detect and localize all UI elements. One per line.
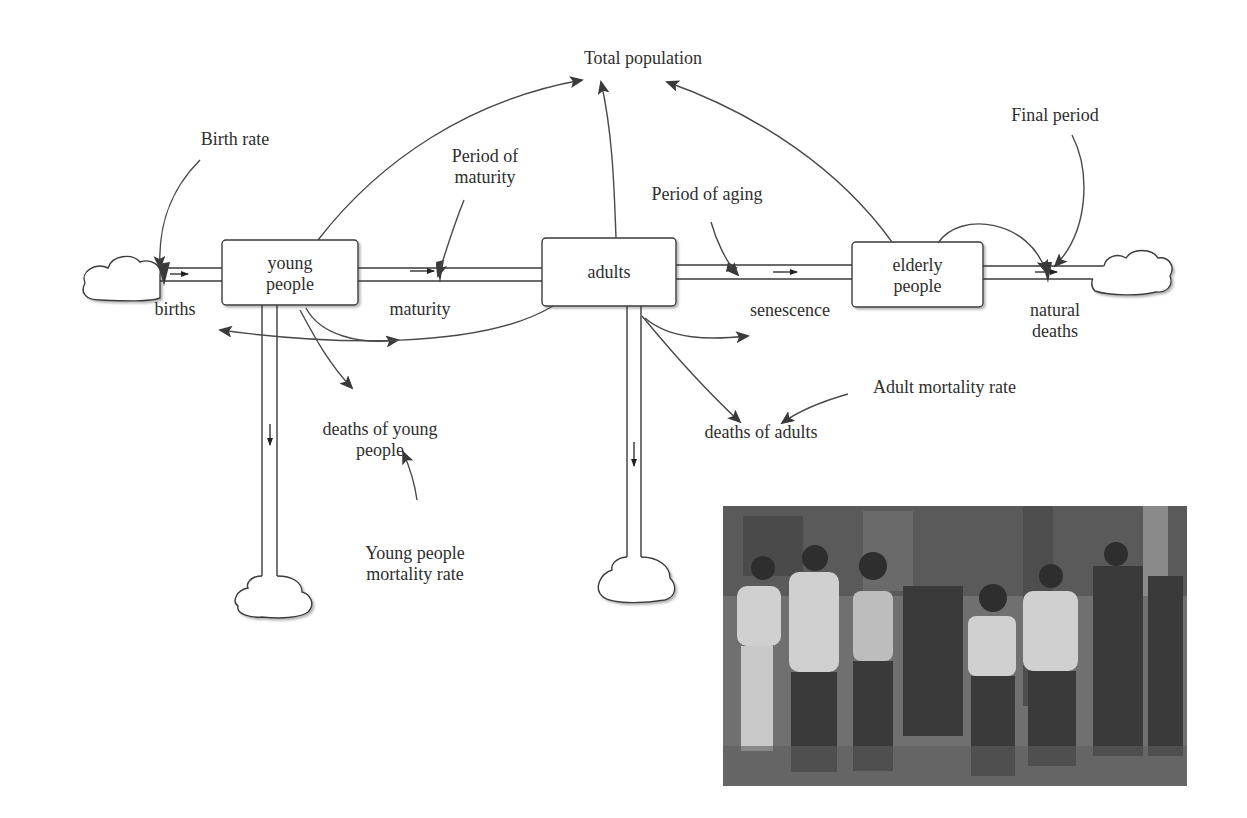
crowd-photo-image	[723, 506, 1187, 786]
stock-young-line1: young	[222, 253, 358, 274]
link-adults-totalpop	[601, 82, 616, 238]
link-periodmaturity-maturity	[438, 200, 464, 276]
flow-deaths-young-line2: people	[295, 440, 465, 461]
aux-period-of-maturity-line1: Period of	[425, 146, 545, 167]
aux-young-mortality-line2: mortality rate	[340, 564, 490, 585]
stock-adults-label: adults	[542, 262, 676, 283]
link-birthrate-births	[160, 160, 200, 268]
crowd-photo	[723, 506, 1187, 786]
link-young-deaths	[300, 310, 352, 388]
flow-deaths-of-adults-label: deaths of adults	[676, 422, 846, 443]
stock-elderly-line1: elderly	[852, 255, 983, 276]
sink-cloud-adult-deaths	[598, 557, 674, 603]
flow-maturity-label: maturity	[370, 299, 470, 320]
aux-young-people-mortality-rate: Young people mortality rate	[340, 543, 490, 585]
stock-elderly-line2: people	[852, 276, 983, 297]
stock-elderly-people-label: elderly people	[852, 255, 983, 297]
stock-young-line2: people	[222, 274, 358, 295]
aux-adult-mortality-rate: Adult mortality rate	[852, 377, 1037, 398]
flow-natural-deaths-line2: deaths	[1000, 321, 1110, 342]
link-finalperiod-naturaldeaths	[1055, 135, 1084, 266]
flow-births-label: births	[140, 299, 210, 320]
aux-final-period: Final period	[990, 105, 1120, 126]
flow-natural-deaths-label: natural deaths	[1000, 300, 1110, 342]
aux-period-of-maturity-line2: maturity	[425, 167, 545, 188]
flow-senescence-label: senescence	[730, 300, 850, 321]
aux-period-of-aging: Period of aging	[632, 184, 782, 205]
link-adults-deathsadults	[642, 316, 740, 422]
flow-natural-deaths-line1: natural	[1000, 300, 1110, 321]
flow-deaths-of-young-people-label: deaths of young people	[295, 419, 465, 461]
source-cloud-births	[83, 256, 160, 300]
link-elderly-totalpop	[667, 82, 892, 242]
sink-cloud-natural-deaths	[1092, 251, 1172, 295]
aux-young-mortality-line1: Young people	[340, 543, 490, 564]
aux-period-of-maturity: Period of maturity	[425, 146, 545, 188]
flow-deaths-young-line1: deaths of young	[295, 419, 465, 440]
link-adults-senescence	[645, 318, 748, 338]
aux-total-population: Total population	[555, 48, 731, 69]
stock-young-people-label: young people	[222, 253, 358, 295]
sink-cloud-young-deaths	[235, 576, 312, 618]
aux-birth-rate: Birth rate	[180, 129, 290, 150]
link-adultmortality-deathsadults	[782, 394, 848, 423]
